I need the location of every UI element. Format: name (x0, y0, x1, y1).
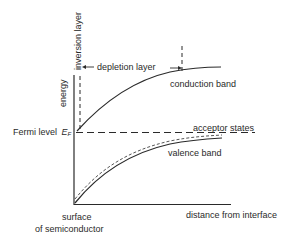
depletion-arrow-left-icon (82, 65, 94, 69)
conduction-band-label: conduction band (170, 80, 236, 89)
depletion-layer-label: depletion layer (97, 63, 156, 72)
conduction-band-curve (77, 67, 221, 131)
fermi-level-label: Fermi level EF (13, 128, 71, 137)
valence-band-label: valence band (168, 149, 222, 158)
distance-axis-label: distance from interface (186, 211, 277, 220)
inversion-layer-label: inversion layer (74, 12, 83, 70)
acceptor-states-curve (75, 135, 222, 199)
energy-axis-label: energy (59, 79, 68, 107)
surface-label-line1: surface (62, 213, 92, 222)
acceptor-states-label: acceptor states (193, 124, 254, 133)
fermi-symbol: EF (62, 127, 72, 137)
fermi-level-text: Fermi level (13, 127, 57, 137)
surface-label-line2: of semiconductor (35, 225, 104, 234)
band-diagram (0, 0, 292, 242)
depletion-arrow-right-icon (170, 66, 182, 70)
